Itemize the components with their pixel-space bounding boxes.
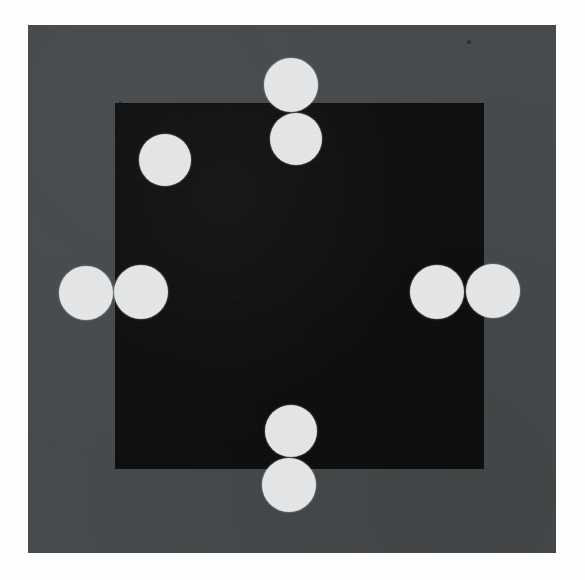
dust-speck-upper-right xyxy=(467,40,471,44)
left-inner-marker xyxy=(114,265,168,319)
top-outer-marker xyxy=(264,58,318,112)
image-canvas xyxy=(0,0,585,580)
bottom-inner-marker xyxy=(265,405,317,457)
bottom-outer-marker xyxy=(262,458,316,512)
right-inner-marker xyxy=(410,265,464,319)
top-inner-marker xyxy=(270,113,322,165)
right-outer-marker xyxy=(466,264,520,318)
dust-speck-mid-left xyxy=(119,101,122,104)
upper-left-marker xyxy=(139,134,191,186)
left-outer-marker xyxy=(59,266,113,320)
